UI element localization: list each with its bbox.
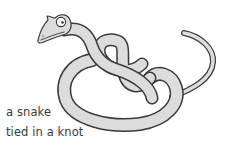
caption-line-2: tied in a knot	[6, 122, 83, 142]
snake-illustration: a snake tied in a knot	[0, 0, 239, 148]
caption-line-1: a snake	[6, 102, 83, 122]
snake-head	[38, 15, 71, 43]
caption: a snake tied in a knot	[6, 102, 83, 142]
snake-eye	[56, 17, 65, 26]
